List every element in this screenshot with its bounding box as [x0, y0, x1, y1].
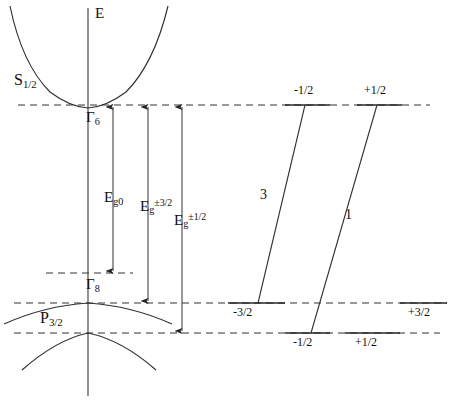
conduction-band-term-label: S1/2 — [14, 72, 37, 90]
gamma6-base: Γ — [86, 109, 95, 125]
eg-32-base: E — [140, 198, 149, 214]
upper-state-label-plus-half: +1/2 — [364, 84, 386, 96]
eg-12-sup: ±1/2 — [188, 211, 206, 222]
energy-axis-label: E — [95, 6, 104, 21]
eg0-label: Eg0 — [104, 190, 123, 207]
gamma6-label: Γ6 — [86, 110, 100, 127]
eg-12-base: E — [174, 212, 183, 228]
gamma8-base: Γ — [86, 276, 95, 292]
valence-band-term-label: P3/2 — [40, 310, 63, 328]
diagram-canvas — [0, 0, 449, 405]
eg-32-sup: ±3/2 — [154, 197, 172, 208]
eg-32-label: Eg±3/2 — [140, 198, 172, 216]
lower-state-label-minus-half: -1/2 — [293, 336, 312, 348]
valence-term-base: P — [40, 309, 49, 326]
transition-line-strength-3 — [258, 105, 305, 303]
conduction-band-curve — [10, 6, 168, 108]
gamma8-sub: 8 — [95, 283, 100, 294]
band-diagram-figure: E S1/2 Γ6 Γ8 P3/2 Eg0 Eg±3/2 Eg±1/2 -1/2… — [0, 0, 449, 405]
middle-state-label-plus-three-half: +3/2 — [408, 306, 430, 318]
eg0-base: E — [104, 189, 113, 205]
lower-state-label-plus-half: +1/2 — [355, 336, 377, 348]
valence-term-sub: 3/2 — [49, 316, 63, 328]
gamma8-label: Γ8 — [86, 277, 100, 294]
upper-state-label-minus-half: -1/2 — [294, 84, 313, 96]
eg0-sub: g0 — [113, 196, 123, 207]
conduction-term-base: S — [14, 71, 23, 88]
eg-12-label: Eg±1/2 — [174, 212, 206, 230]
conduction-term-sub: 1/2 — [23, 78, 37, 90]
transition-line-strength-1 — [311, 105, 377, 333]
light-hole-band-curve — [22, 333, 156, 370]
gamma6-sub: 6 — [95, 116, 100, 127]
transition-strength-label-3: 3 — [260, 188, 267, 202]
transition-strength-label-1: 1 — [345, 208, 352, 222]
middle-state-label-minus-three-half: -3/2 — [233, 306, 252, 318]
